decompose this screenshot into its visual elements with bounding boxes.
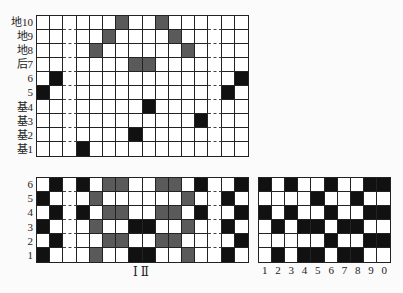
grid-cell	[116, 128, 129, 142]
grid-cell	[116, 220, 129, 234]
grid-cell	[182, 86, 195, 100]
grid-cell	[129, 220, 142, 234]
grid-cell	[169, 248, 182, 262]
grid-cell	[103, 248, 116, 262]
grid-cell	[90, 16, 103, 30]
grid-cell	[364, 192, 377, 206]
grid-cell	[116, 30, 129, 44]
grid-cell	[298, 234, 311, 248]
grid-cell	[37, 220, 50, 234]
grid-cell	[129, 206, 142, 220]
grid-cell	[272, 206, 285, 220]
grid-cell	[77, 178, 90, 192]
grid-cell	[143, 72, 156, 86]
grid-cell	[103, 142, 116, 156]
grid-cell	[90, 72, 103, 86]
grid-cell	[195, 30, 208, 44]
grid-cell	[298, 206, 311, 220]
grid-cell	[37, 234, 50, 248]
tie-up-grid	[258, 177, 391, 263]
grid-cell	[377, 220, 390, 234]
grid-cell	[195, 178, 208, 192]
grid-cell	[259, 220, 272, 234]
grid-cell	[50, 100, 63, 114]
grid-cell	[90, 44, 103, 58]
grid-cell	[103, 86, 116, 100]
grid-cell	[63, 30, 76, 44]
grid-cell	[208, 58, 221, 72]
grid-cell	[169, 100, 182, 114]
grid-cell	[222, 234, 235, 248]
grid-cell	[156, 178, 169, 192]
grid-cell	[156, 16, 169, 30]
grid-cell	[222, 72, 235, 86]
grid-cell	[285, 220, 298, 234]
grid-cell	[169, 142, 182, 156]
grid-cell	[116, 58, 129, 72]
grid-cell	[90, 100, 103, 114]
grid-cell	[208, 16, 221, 30]
grid-cell	[63, 128, 76, 142]
grid-cell	[37, 128, 50, 142]
grid-cell	[377, 206, 390, 220]
grid-cell	[285, 206, 298, 220]
grid-cell	[156, 114, 169, 128]
grid-cell	[235, 248, 248, 262]
grid-cell	[351, 248, 364, 262]
grid-cell	[182, 44, 195, 58]
grid-cell	[235, 128, 248, 142]
grid-cell	[195, 58, 208, 72]
grid-cell	[50, 128, 63, 142]
grid-cell	[103, 114, 116, 128]
column-label: 5	[311, 264, 324, 276]
grid-cell	[235, 206, 248, 220]
grid-cell	[50, 234, 63, 248]
weave-pattern-grid	[36, 177, 249, 263]
grid-cell	[169, 220, 182, 234]
grid-cell	[351, 220, 364, 234]
grid-cell	[182, 234, 195, 248]
grid-cell	[311, 220, 324, 234]
grid-cell	[182, 16, 195, 30]
grid-cell	[156, 128, 169, 142]
grid-cell	[116, 72, 129, 86]
grid-cell	[103, 178, 116, 192]
grid-cell	[143, 234, 156, 248]
grid-cell	[325, 220, 338, 234]
grid-cell	[50, 86, 63, 100]
grid-cell	[222, 100, 235, 114]
column-label: 2	[271, 264, 284, 276]
grid-cell	[156, 234, 169, 248]
grid-cell	[182, 206, 195, 220]
grid-cell	[272, 248, 285, 262]
grid-cell	[143, 86, 156, 100]
grid-cell	[116, 234, 129, 248]
grid-cell	[195, 234, 208, 248]
grid-cell	[63, 178, 76, 192]
grid-cell	[298, 248, 311, 262]
grid-cell	[222, 30, 235, 44]
grid-cell	[182, 220, 195, 234]
grid-cell	[129, 86, 142, 100]
grid-cell	[143, 16, 156, 30]
column-label: 7	[338, 264, 351, 276]
grid-cell	[285, 248, 298, 262]
grid-cell	[195, 100, 208, 114]
grid-cell	[169, 86, 182, 100]
grid-cell	[63, 44, 76, 58]
grid-cell	[116, 192, 129, 206]
grid-cell	[338, 248, 351, 262]
grid-cell	[77, 142, 90, 156]
grid-cell	[182, 30, 195, 44]
grid-cell	[169, 234, 182, 248]
grid-cell	[143, 30, 156, 44]
grid-cell	[37, 206, 50, 220]
threading-draft-grid	[36, 15, 249, 157]
grid-cell	[169, 44, 182, 58]
grid-cell	[208, 72, 221, 86]
grid-cell	[50, 142, 63, 156]
grid-cell	[182, 248, 195, 262]
grid-cell	[272, 178, 285, 192]
row-label: 基1	[0, 142, 33, 156]
grid-cell	[235, 178, 248, 192]
